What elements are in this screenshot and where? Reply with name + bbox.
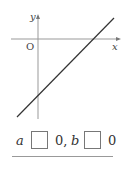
zero-label: 0 — [108, 131, 116, 150]
answer-blank-a[interactable] — [31, 131, 48, 149]
answer-blank-b[interactable] — [84, 131, 101, 149]
variable-b: b — [71, 131, 79, 150]
origin-label: O — [26, 42, 34, 52]
y-axis-arrow-icon — [36, 14, 40, 19]
y-axis-label: y — [30, 12, 36, 22]
answer-underline — [12, 156, 113, 157]
coordinate-graph — [0, 0, 129, 125]
linear-function-line — [17, 18, 114, 117]
zero-comma-label: 0, — [55, 131, 67, 150]
answer-row: a 0, b 0 — [0, 131, 129, 151]
variable-a: a — [16, 131, 24, 150]
x-axis-label: x — [112, 42, 118, 52]
